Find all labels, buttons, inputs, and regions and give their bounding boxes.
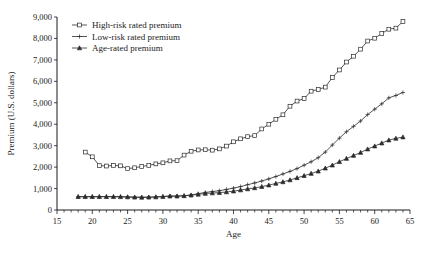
data-point: [239, 137, 243, 141]
data-point: [161, 161, 165, 165]
y-tick-label: 8,000: [33, 33, 52, 43]
data-point: [366, 39, 370, 43]
data-point: [232, 140, 236, 144]
chart-figure: 01,0002,0003,0004,0005,0006,0007,0008,00…: [0, 0, 429, 254]
y-tick-label: 0: [48, 205, 52, 215]
axis-labels: 01,0002,0003,0004,0005,0006,0007,0008,00…: [6, 12, 414, 239]
x-axis-title: Age: [226, 229, 241, 239]
data-point: [126, 167, 130, 171]
data-point: [401, 90, 405, 94]
data-point: [196, 148, 200, 152]
data-point: [323, 85, 327, 89]
x-tick-label: 60: [370, 216, 379, 226]
y-tick-label: 7,000: [33, 55, 52, 65]
x-tick-label: 30: [159, 216, 168, 226]
x-tick-label: 50: [300, 216, 309, 226]
data-point: [401, 20, 405, 24]
legend-label: Low-risk rated premium: [92, 32, 180, 42]
data-point: [189, 149, 193, 153]
data-point: [316, 88, 320, 92]
data-point: [260, 127, 264, 131]
data-point: [309, 89, 313, 93]
data-point: [168, 159, 172, 163]
x-tick-label: 55: [335, 216, 344, 226]
data-point: [253, 181, 257, 185]
data-point: [338, 68, 342, 72]
data-point: [217, 147, 221, 151]
legend-item-1[interactable]: High-risk rated premium: [72, 20, 181, 30]
data-point: [302, 97, 306, 101]
legend-item-3[interactable]: Age-rated premium: [72, 43, 163, 53]
y-tick-label: 3,000: [33, 141, 52, 151]
data-point: [154, 162, 158, 166]
data-point: [210, 148, 214, 152]
data-point: [352, 54, 356, 58]
y-tick-label: 4,000: [33, 119, 52, 129]
data-point: [281, 113, 285, 117]
y-tick-label: 6,000: [33, 76, 52, 86]
legend-marker-plus-icon: [77, 34, 81, 38]
data-point: [302, 163, 306, 167]
x-tick-label: 40: [229, 216, 238, 226]
legend-label: High-risk rated premium: [92, 20, 181, 30]
data-point: [225, 144, 229, 148]
data-point: [288, 104, 292, 108]
data-point: [267, 122, 271, 126]
data-point: [401, 135, 405, 139]
data-point: [97, 164, 101, 168]
data-point: [112, 163, 116, 167]
x-tick-label: 35: [194, 216, 203, 226]
data-point: [182, 153, 186, 157]
data-point: [175, 159, 179, 163]
data-point: [105, 164, 109, 168]
data-point: [330, 76, 334, 80]
data-point: [295, 99, 299, 103]
legend-item-2[interactable]: Low-risk rated premium: [72, 32, 180, 42]
y-tick-label: 2,000: [33, 162, 52, 172]
legend-marker-open-square-icon: [78, 23, 82, 27]
y-axis-title: Premium (U.S. dollars): [6, 72, 16, 156]
data-point: [267, 177, 271, 181]
data-point: [394, 26, 398, 30]
y-tick-label: 9,000: [33, 12, 52, 22]
data-point: [203, 148, 207, 152]
data-point: [260, 179, 264, 183]
x-tick-label: 45: [265, 216, 274, 226]
data-point: [83, 150, 87, 154]
data-point: [387, 27, 391, 31]
data-point: [274, 174, 278, 178]
data-point: [281, 172, 285, 176]
data-point: [288, 169, 292, 173]
x-tick-label: 65: [406, 216, 415, 226]
data-point: [133, 166, 137, 170]
legend-label: Age-rated premium: [92, 43, 163, 53]
data-point: [140, 165, 144, 169]
data-point: [309, 160, 313, 164]
data-point: [358, 150, 362, 154]
data-point: [330, 163, 334, 167]
series-2: [76, 90, 405, 199]
data-point: [246, 135, 250, 139]
data-point: [373, 36, 377, 40]
y-tick-label: 5,000: [33, 98, 52, 108]
data-point: [274, 117, 278, 121]
chart-legend[interactable]: High-risk rated premiumLow-risk rated pr…: [72, 20, 181, 53]
data-point: [394, 93, 398, 97]
data-point: [90, 155, 94, 159]
data-point: [119, 164, 123, 168]
data-point: [295, 167, 299, 171]
x-tick-label: 20: [88, 216, 97, 226]
series-line: [78, 92, 403, 197]
data-point: [147, 163, 151, 167]
y-tick-label: 1,000: [33, 184, 52, 194]
data-point: [345, 60, 349, 64]
x-tick-label: 15: [53, 216, 62, 226]
premium-by-age-line-chart: 01,0002,0003,0004,0005,0006,0007,0008,00…: [0, 0, 429, 254]
x-tick-label: 25: [123, 216, 132, 226]
data-point: [380, 32, 384, 36]
data-point: [253, 134, 257, 138]
data-point: [337, 160, 341, 164]
data-point: [359, 47, 363, 51]
